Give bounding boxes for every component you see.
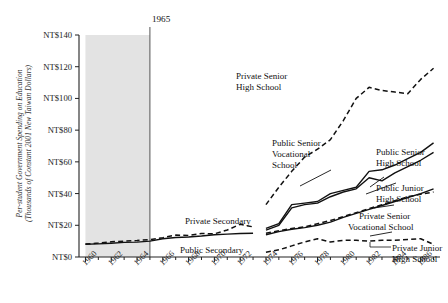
annotation-public-senior-vocational-line1: Public Senior: [272, 138, 321, 148]
x-tick-label: 1982: [364, 249, 382, 267]
chart-container: Per-student Government Spending on Educa…: [0, 0, 448, 303]
x-tick-label: 1966: [158, 249, 176, 267]
y-tick-label: NT$20: [48, 220, 72, 230]
y-tick-label: NT$140: [43, 30, 72, 40]
annotation-private-junior-high-line2: High School: [392, 254, 438, 264]
annotation-private-senior-vocational-line1: Private Senior: [359, 211, 410, 221]
x-tick-label: 1978: [313, 249, 331, 267]
y-tick-label: NT$80: [48, 125, 72, 135]
annotation-public-senior-high-line2: High School: [376, 158, 422, 168]
annotation-public-senior-high-line1: Public Senior: [376, 147, 425, 157]
annotation-private-secondary: Private Secondary: [185, 216, 251, 226]
annotation-public-secondary: Public Secondary: [180, 245, 244, 255]
annotation-public-junior-high-line2: High School: [376, 194, 422, 204]
annotation-public-senior-vocational-line2: Vocational: [272, 149, 311, 159]
annotation-public-junior-high-line1: Public Junior: [376, 183, 424, 193]
x-tick-label: 1976: [287, 249, 305, 267]
y-tick-label: NT$60: [48, 157, 72, 167]
annotation-private-junior-high-line1: Private Junior: [392, 243, 442, 253]
annotation-private-senior-vocational-line2: Vocational School: [348, 222, 414, 232]
annotation-private-senior-high-line1: Private Senior: [236, 71, 287, 81]
annotation-private-senior-high-line2: High School: [236, 82, 282, 92]
x-tick-label: 1980: [338, 249, 356, 267]
annotation-leader-lines: [300, 170, 396, 247]
chart-svg: 1965 NT$0NT$20NT$40NT$60NT$80NT$100NT$12…: [0, 0, 448, 303]
y-tick-label: NT$120: [43, 62, 72, 72]
annotation-public-senior-vocational-line3: School: [272, 160, 298, 170]
y-tick-label: NT$0: [52, 252, 72, 262]
shaded-region-1960-1965: [85, 35, 149, 257]
year-1965-label: 1965: [152, 14, 171, 24]
y-tick-label: NT$100: [43, 93, 72, 103]
y-tick-label: NT$40: [48, 189, 72, 199]
y-axis-ticks: NT$0NT$20NT$40NT$60NT$80NT$100NT$120NT$1…: [43, 30, 79, 262]
